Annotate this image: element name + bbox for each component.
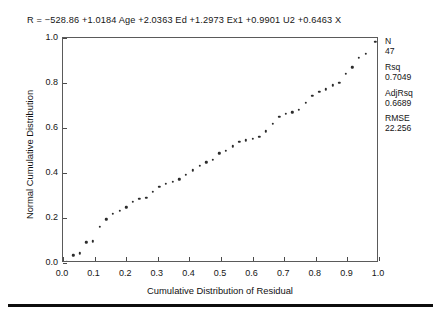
y-axis-title: Normal Cumulative Distribution — [24, 55, 35, 255]
y-axis-tick-label: 1.0 — [45, 32, 58, 42]
y-axis-tick-label: 0.2 — [45, 212, 58, 222]
data-point — [98, 226, 100, 228]
x-axis-tick-label: 0.1 — [87, 268, 100, 278]
data-point — [345, 73, 347, 75]
data-point — [118, 209, 120, 211]
data-point — [138, 198, 140, 200]
data-point — [198, 165, 200, 167]
data-point — [251, 137, 253, 139]
data-point — [311, 95, 313, 97]
stat-value: 0.6689 — [385, 98, 439, 108]
x-axis-tick — [379, 257, 380, 261]
stat-label: Rsq — [385, 62, 439, 72]
plot-area — [62, 37, 378, 262]
regression-equation: R = −528.86 +1.0184 Age +2.0363 Ed +1.29… — [27, 15, 341, 25]
data-point — [72, 254, 74, 256]
data-point — [374, 41, 376, 43]
x-axis-tick — [63, 257, 64, 261]
data-point — [145, 197, 147, 199]
data-point — [331, 84, 333, 86]
x-axis-tick-label: 0.6 — [245, 268, 258, 278]
data-point — [231, 145, 233, 147]
data-point — [351, 66, 353, 68]
x-axis-tick-label: 0.3 — [151, 268, 164, 278]
stat-rmse: RMSE22.256 — [385, 113, 439, 133]
stat-value: 0.7049 — [385, 72, 439, 82]
x-axis-tick-label: 0.4 — [182, 268, 195, 278]
x-axis-tick-label: 0.2 — [119, 268, 132, 278]
x-axis-tick — [95, 257, 96, 261]
data-point — [185, 174, 187, 176]
stat-adjrsq: AdjRsq0.6689 — [385, 88, 439, 108]
data-point — [318, 90, 320, 92]
data-point — [212, 158, 214, 160]
x-axis-title: Cumulative Distribution of Residual — [62, 285, 378, 296]
x-axis-tick-label: 0.9 — [340, 268, 353, 278]
data-point — [245, 139, 247, 141]
x-axis-tick-label: 0.8 — [309, 268, 322, 278]
y-axis-tick — [63, 218, 67, 219]
bottom-divider — [8, 304, 433, 307]
x-axis-tick-label: 0.0 — [56, 268, 69, 278]
data-point — [85, 241, 87, 243]
x-axis-tick-label: 0.5 — [214, 268, 227, 278]
data-point — [304, 102, 306, 104]
data-point — [325, 88, 327, 90]
data-point — [278, 116, 280, 118]
data-point — [285, 113, 287, 115]
data-point — [258, 135, 260, 137]
y-axis-tick — [63, 38, 67, 39]
data-point — [165, 183, 167, 185]
x-axis-tick — [189, 257, 190, 261]
data-point — [192, 169, 194, 171]
x-axis-tick-label: 1.0 — [372, 268, 385, 278]
data-point — [218, 152, 220, 154]
data-point — [205, 161, 207, 163]
data-point — [265, 130, 267, 132]
data-point — [225, 149, 227, 151]
stat-label: RMSE — [385, 113, 439, 123]
data-point — [79, 252, 81, 254]
data-point — [112, 213, 114, 215]
y-axis-tick-label: 0.4 — [45, 167, 58, 177]
stat-value: 22.256 — [385, 123, 439, 133]
data-point — [178, 178, 180, 180]
y-axis-tick — [63, 128, 67, 129]
data-point — [291, 111, 293, 113]
data-point — [365, 53, 367, 55]
y-axis-tick-label: 0.6 — [45, 122, 58, 132]
x-axis-tick-labels: 0.00.10.20.30.40.50.60.70.80.91.0 — [62, 268, 378, 282]
statistics-panel: N47Rsq0.7049AdjRsq0.6689RMSE22.256 — [385, 36, 439, 134]
data-point — [132, 201, 134, 203]
y-axis-tick — [63, 83, 67, 84]
y-axis-tick — [63, 263, 67, 264]
x-axis-tick — [284, 257, 285, 261]
data-point — [105, 218, 107, 220]
x-axis-tick-label: 0.7 — [277, 268, 290, 278]
x-axis-tick — [126, 257, 127, 261]
x-axis-tick — [221, 257, 222, 261]
y-axis-tick-label: 0.0 — [45, 257, 58, 267]
stat-n: N47 — [385, 36, 439, 56]
data-point — [125, 206, 127, 208]
x-axis-tick — [253, 257, 254, 261]
stat-label: AdjRsq — [385, 88, 439, 98]
stat-label: N — [385, 36, 439, 46]
x-axis-tick — [316, 257, 317, 261]
data-point — [338, 82, 340, 84]
data-point — [271, 123, 273, 125]
scatter-series — [63, 38, 377, 261]
data-point — [358, 57, 360, 59]
data-point — [171, 180, 173, 182]
data-point — [152, 190, 154, 192]
stat-value: 47 — [385, 46, 439, 56]
stat-rsq: Rsq0.7049 — [385, 62, 439, 82]
data-point — [92, 240, 94, 242]
y-axis-tick — [63, 173, 67, 174]
y-axis-tick-label: 0.8 — [45, 77, 58, 87]
data-point — [238, 140, 240, 142]
data-point — [298, 108, 300, 110]
x-axis-tick — [347, 257, 348, 261]
data-point — [158, 185, 160, 187]
x-axis-tick — [158, 257, 159, 261]
